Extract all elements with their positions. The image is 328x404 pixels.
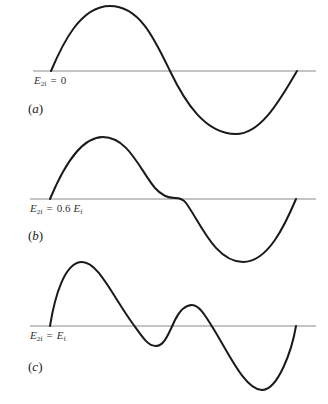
panel-label-a: (a) bbox=[28, 101, 43, 116]
condition-label-b: E2f=0.6Ef bbox=[29, 202, 83, 216]
panel-a: E2f=0 (a) bbox=[28, 6, 316, 134]
panel-b: E2f=0.6Ef (b) bbox=[28, 137, 316, 262]
panel-label-c: (c) bbox=[28, 359, 42, 374]
condition-label-c: E2f=Ef bbox=[29, 329, 67, 343]
panel-label-b: (b) bbox=[28, 228, 43, 243]
waveform-diagram: E2f=0 (a) E2f=0.6Ef (b) E2f=Ef (c) bbox=[0, 0, 328, 404]
condition-label-a: E2f=0 bbox=[33, 74, 67, 88]
panel-c: E2f=Ef (c) bbox=[28, 262, 316, 390]
waveform-a bbox=[51, 6, 297, 134]
